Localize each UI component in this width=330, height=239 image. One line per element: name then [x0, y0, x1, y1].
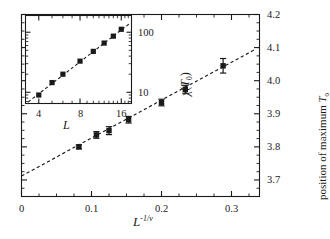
main-x-tick-label-0: 0 [19, 203, 24, 214]
main-x-axis-label-exponent: -1/ν [140, 214, 153, 223]
main-y-axis-label: position of maximum T0 [316, 93, 328, 200]
inset-x-tick-label-1: 8 [78, 108, 83, 119]
main-y-axis-label-subscript: 0 [323, 93, 330, 96]
inset-x-axis-label: L [63, 118, 70, 133]
main-x-tick-label-3: 0.3 [225, 203, 238, 214]
main-y-tick-label-0: 3.7 [267, 174, 280, 185]
main-y-tick-label-5: 4.2 [267, 9, 280, 20]
main-y-tick-label-4: 4.1 [267, 42, 280, 53]
inset-y-axis-label-symbol: χ [178, 91, 192, 96]
main-y-axis-label-symbol: T [316, 96, 328, 102]
inset-x-axis-label-text: L [63, 118, 70, 132]
main-y-axis-label-text: position of maximum [316, 103, 328, 200]
main-y-tick-label-1: 3.8 [267, 141, 280, 152]
main-x-tick-label-2: 0.2 [155, 203, 168, 214]
inset-y-axis-label-paren-open: ( [178, 87, 192, 91]
inset-y-tick-label-1: 100 [138, 27, 154, 38]
main-y-tick-label-3: 4.0 [267, 75, 280, 86]
main-x-tick-label-1: 0.1 [85, 203, 98, 214]
main-y-tick-label-2: 3.9 [267, 108, 280, 119]
inset-y-tick-label-0: 10 [138, 87, 149, 98]
inset-y-axis-label: χ(T0) [178, 72, 193, 96]
inset-x-tick-label-2: 16 [116, 108, 127, 119]
inset-y-axis-label-arg: T [178, 80, 192, 87]
inset-y-axis-label-arg-subscript: 0 [185, 76, 194, 80]
main-x-axis-label: L-1/ν [133, 214, 153, 230]
inset-y-axis-label-paren-close: ) [178, 72, 192, 76]
inset-x-tick-label-0: 4 [36, 108, 41, 119]
